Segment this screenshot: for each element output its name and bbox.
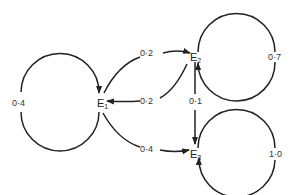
label-e3-e3: 1·0 xyxy=(269,149,282,159)
node-e2: E2 xyxy=(190,51,201,64)
label-e2-e3: 0·1 xyxy=(189,96,202,106)
label-e1-e3: 0·4 xyxy=(140,144,153,154)
edge-e1-e1-lower xyxy=(21,112,99,151)
label-e2-e1: 0·2 xyxy=(140,96,153,106)
label-e2-e2: 0·7 xyxy=(268,52,281,62)
edge-e3-e3-lower xyxy=(199,158,275,195)
edge-e1-e1 xyxy=(21,53,99,93)
node-e3: E3 xyxy=(190,148,201,161)
node-e1: E1 xyxy=(97,97,108,110)
label-e1-e1: 0·4 xyxy=(12,98,25,108)
edge-e2-e2-lower xyxy=(198,62,275,101)
edge-e3-e3 xyxy=(198,110,275,149)
edge-e2-e2 xyxy=(198,14,275,53)
label-e1-e2: 0·2 xyxy=(140,48,153,58)
state-diagram: E1 E2 E3 0·4 0·2 0·2 0·4 0·1 0·7 1·0 xyxy=(0,0,297,195)
